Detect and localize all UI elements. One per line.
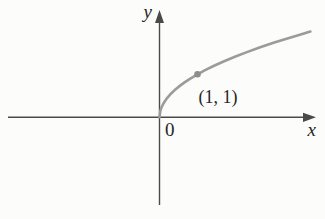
point-marker — [194, 71, 201, 78]
figure-background — [0, 0, 325, 219]
point-label: (1, 1) — [199, 87, 238, 108]
origin-label: 0 — [165, 119, 175, 140]
graph-canvas: y x 0 (1, 1) — [0, 0, 325, 219]
x-axis-label: x — [307, 119, 317, 140]
y-axis-label: y — [142, 1, 153, 22]
graph-figure: y x 0 (1, 1) — [0, 0, 325, 219]
